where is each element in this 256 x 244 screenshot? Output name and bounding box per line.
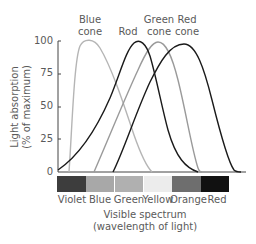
x-axis-label: Visible spectrum (wavelength of light) [80,209,210,233]
spectrum-orange [172,176,201,192]
spectrum-green [115,176,143,192]
spectrum-red [201,176,229,192]
spectrum-label-violet: Violet [55,194,89,206]
rod-curve [58,41,198,172]
spectrum-blue [86,176,114,192]
x-axis-label-line2: (wavelength of light) [80,221,210,233]
green-cone-curve [94,42,202,172]
spectrum-violet [57,176,86,192]
spectrum-label-red: Red [203,194,231,206]
spectrum-label-blue: Blue [86,194,114,206]
spectrum-yellow [144,176,172,192]
x-axis-label-line1: Visible spectrum [80,209,210,221]
plot-area [0,0,256,244]
spectrum-label-orange: Orange [170,194,206,206]
